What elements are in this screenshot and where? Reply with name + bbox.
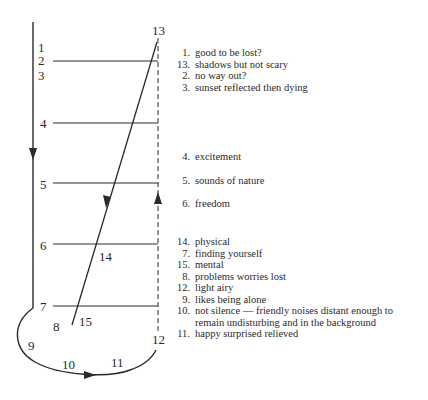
legend-item: 15.mental xyxy=(172,259,415,271)
legend-number: 5. xyxy=(172,169,190,193)
label-10: 10 xyxy=(62,357,75,372)
label-15: 15 xyxy=(79,314,92,329)
legend-text: excitement xyxy=(195,145,415,169)
legend-number: 3. xyxy=(172,82,190,94)
legend-number: 2. xyxy=(172,70,190,82)
legend-number: 4. xyxy=(172,145,190,169)
legend-group-3: 14.physical 7.finding yourself 15.mental… xyxy=(172,236,415,340)
legend-text: happy surprised relieved xyxy=(195,328,415,340)
legend-text: finding yourself xyxy=(195,248,415,260)
legend-number: 15. xyxy=(172,259,190,271)
legend-text: likes being alone xyxy=(195,294,415,306)
legend-item: 10.not silence — friendly noises distant… xyxy=(172,305,415,328)
legend-text: no way out? xyxy=(195,70,415,82)
legend-number: 11. xyxy=(172,328,190,340)
legend-item: 12.light airy xyxy=(172,282,415,294)
legend-text: not silence — friendly noises distant en… xyxy=(195,305,415,328)
right-arrow-icon xyxy=(84,371,96,379)
legend-text: good to be lost? xyxy=(195,47,415,59)
legend-number: 14. xyxy=(172,236,190,248)
up-arrow-icon xyxy=(154,192,162,204)
label-9: 9 xyxy=(28,338,35,353)
legend-text: light airy xyxy=(195,282,415,294)
legend-item: 4.excitement xyxy=(172,145,415,169)
legend-number: 7. xyxy=(172,248,190,260)
legend-item: 13.shadows but not scary xyxy=(172,59,415,71)
legend-text: mental xyxy=(195,259,415,271)
legend-item: 11.happy surprised relieved xyxy=(172,328,415,340)
label-8: 8 xyxy=(53,319,60,334)
legend-number: 9. xyxy=(172,294,190,306)
label-5: 5 xyxy=(40,177,47,192)
legend-item: 1.good to be lost? xyxy=(172,47,415,59)
down-arrow-icon xyxy=(29,148,37,160)
legend-number: 10. xyxy=(172,305,190,328)
legend-item: 14.physical xyxy=(172,236,415,248)
legend-number: 8. xyxy=(172,271,190,283)
legend-item: 2.no way out? xyxy=(172,70,415,82)
legend-number: 6. xyxy=(172,192,190,216)
label-11: 11 xyxy=(111,355,124,370)
legend-text: freedom xyxy=(195,192,415,216)
legend-item: 6.freedom xyxy=(172,192,415,216)
legend-text: sunset reflected then dying xyxy=(195,82,415,94)
legend-group-1: 1.good to be lost? 13.shadows but not sc… xyxy=(172,47,415,93)
legend-item: 9.likes being alone xyxy=(172,294,415,306)
legend-item: 7.finding yourself xyxy=(172,248,415,260)
label-2: 2 xyxy=(38,53,45,68)
label-7: 7 xyxy=(40,299,47,314)
legend-text: physical xyxy=(195,236,415,248)
legend-number: 1. xyxy=(172,47,190,59)
legend-item: 8.problems worries lost xyxy=(172,271,415,283)
legend-number: 13. xyxy=(172,59,190,71)
legend-number: 12. xyxy=(172,282,190,294)
legend-group-2: 4.excitement 5.sounds of nature 6.freedo… xyxy=(172,145,415,216)
label-14: 14 xyxy=(99,249,113,264)
label-12: 12 xyxy=(152,332,165,347)
legend-item: 5.sounds of nature xyxy=(172,169,415,193)
label-6: 6 xyxy=(40,238,47,253)
label-13: 13 xyxy=(152,23,165,38)
legend-text: shadows but not scary xyxy=(195,59,415,71)
legend-text: sounds of nature xyxy=(195,169,415,193)
diagonal-arrow-icon xyxy=(103,195,111,208)
legend-item: 3.sunset reflected then dying xyxy=(172,82,415,94)
legend-text: problems worries lost xyxy=(195,271,415,283)
label-3: 3 xyxy=(38,68,45,83)
label-4: 4 xyxy=(40,116,47,131)
